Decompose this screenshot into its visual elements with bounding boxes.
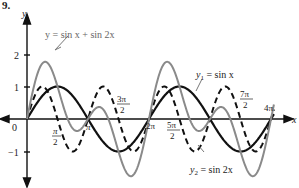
- y-tick-2: 2: [14, 50, 19, 61]
- x-tick-7pi-over-2: 7π 2: [240, 89, 253, 110]
- x-tick-3pi-over-2: 3π 2: [117, 94, 130, 115]
- figure-number: 9.: [2, 0, 11, 11]
- sum-curve-label: y = sin x + sin 2x: [45, 29, 115, 40]
- x-tick-pi: π: [86, 122, 91, 132]
- sin-2x-label: y2 = sin 2x: [189, 164, 233, 177]
- svg-text:3π: 3π: [117, 94, 127, 104]
- y-tick-1: 1: [14, 82, 19, 93]
- svg-text:2: 2: [120, 105, 125, 115]
- y-tick-minus-1: −1: [8, 147, 19, 158]
- svg-text:5π: 5π: [167, 120, 177, 130]
- x-tick-2pi: 2π: [146, 121, 156, 131]
- sin-x-label: y1 = sin x: [195, 69, 234, 82]
- origin-label: 0: [12, 122, 17, 133]
- x-axis-left-arrow: [0, 116, 9, 123]
- x-tick-4pi: 4π: [264, 103, 274, 113]
- x-axis-label: x: [291, 114, 297, 125]
- x-tick-5pi-over-2: 5π 2: [167, 120, 180, 141]
- svg-text:2: 2: [53, 137, 58, 147]
- svg-text:π: π: [53, 126, 58, 136]
- axes: [0, 14, 293, 187]
- svg-text:7π: 7π: [240, 89, 250, 99]
- y-axis-label: y: [21, 8, 27, 19]
- svg-text:2: 2: [243, 100, 248, 110]
- y-axis-down-arrow: [24, 178, 31, 187]
- svg-text:2: 2: [170, 131, 175, 141]
- chart: 9. y x 0 2 1 −1 π 2 π 3π 2 2π 5π 2 7π 2 …: [0, 0, 299, 188]
